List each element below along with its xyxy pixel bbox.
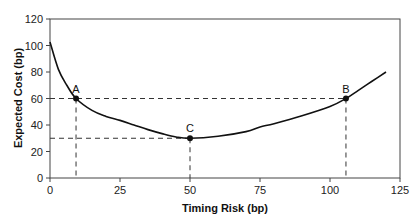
point-a-label: A: [72, 83, 80, 95]
point-c-marker: [187, 135, 193, 141]
y-tick-label: 80: [31, 66, 43, 78]
point-b-marker: [343, 96, 349, 102]
cost-curve: [50, 42, 386, 138]
x-tick-label: 50: [184, 184, 196, 196]
y-tick-label: 0: [37, 172, 43, 184]
y-axis-title: Expected Cost (bp): [12, 48, 24, 149]
x-tick-label: 125: [391, 184, 409, 196]
point-a-marker: [73, 96, 79, 102]
efficient-frontier-chart: 020406080100120 0255075100125 ABC Timing…: [0, 0, 419, 222]
y-tick-label: 20: [31, 146, 43, 158]
point-b-label: B: [342, 83, 349, 95]
point-c-label: C: [186, 122, 194, 134]
points: ABC: [72, 83, 349, 142]
x-tick-label: 75: [254, 184, 266, 196]
y-tick-label: 120: [25, 13, 43, 25]
y-axis: 020406080100120: [25, 13, 50, 184]
x-axis-title: Timing Risk (bp): [182, 202, 268, 214]
y-tick-label: 40: [31, 119, 43, 131]
y-tick-label: 100: [25, 40, 43, 52]
x-tick-label: 0: [47, 184, 53, 196]
x-tick-label: 25: [114, 184, 126, 196]
x-axis: 0255075100125: [47, 178, 409, 196]
x-tick-label: 100: [321, 184, 339, 196]
y-tick-label: 60: [31, 93, 43, 105]
